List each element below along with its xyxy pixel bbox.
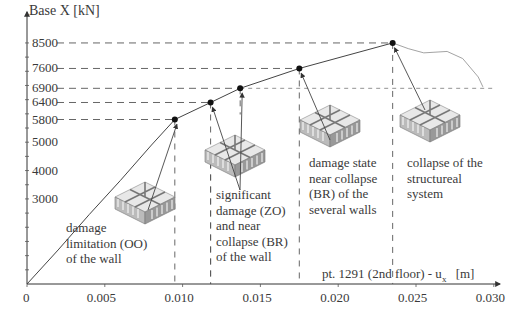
annotation-near-collapse: damage state near collapse (BR) of the s… [309,155,377,217]
annotation-line: of the wall [216,249,288,265]
x-axis-title-sub: x [442,274,447,284]
x-tick-label: 0.025 [398,290,427,305]
key-point-marker [237,85,243,91]
annotation-line: (BR) of the [309,186,377,202]
annotation-line: damage state [309,155,377,171]
key-point-marker [172,117,178,123]
annotation-significant-damage: significant damage (ZO) and near collaps… [216,187,288,265]
annotation-line: and near [216,218,288,234]
post-peak-curve [393,43,483,87]
y-tick-label: 8500 [32,35,58,50]
key-point-marker [390,40,396,46]
y-tick-label: 5000 [32,134,58,149]
building-near-collapse-icon [300,105,360,147]
annotation-line: limitation (OO) [66,236,147,252]
x-axis-title-unit: [m] [456,266,475,281]
building-damage-limitation-icon [115,182,175,224]
key-point-marker [208,99,214,105]
annotation-line: collapse of the [407,155,483,171]
building-collapse-icon [400,100,460,142]
annotation-damage-limitation: damage limitation (OO) of the wall [66,220,147,267]
annotation-collapse: collapse of the structureal system [407,155,483,202]
annotation-line: damage [66,220,147,236]
y-tick-label: 5800 [32,112,58,127]
annotation-line: collapse (BR) [216,234,288,250]
x-axis-title-main: pt. 1291 (2nd floor) - u [322,266,442,281]
y-tick-label: 6900 [32,80,58,95]
annotation-line: damage (ZO) [216,203,288,219]
y-axis-title: Base X [kN] [29,3,100,18]
annotation-line: significant [216,187,288,203]
y-tick-label: 6400 [32,94,58,109]
pointer-arrow [395,48,425,110]
y-tick-label: 4000 [32,163,58,178]
x-tick-label: 0.010 [165,290,194,305]
x-tick-label: 0 [23,290,30,305]
y-tick-label: 3000 [32,191,58,206]
x-tick-label: 0.015 [242,290,271,305]
annotation-line: structureal [407,171,483,187]
building-significant-damage-icon [205,135,265,177]
x-tick-label: 0.030 [476,290,505,305]
x-axis-title: pt. 1291 (2nd floor) - ux [m] [322,266,474,287]
y-tick-label: 7600 [32,60,58,75]
annotation-line: several walls [309,202,377,218]
annotation-line: near collapse [309,171,377,187]
x-tick-label: 0.020 [320,290,349,305]
key-point-marker [296,65,302,71]
annotation-line: of the wall [66,251,147,267]
annotation-line: system [407,186,483,202]
x-tick-label: 0.005 [87,290,116,305]
